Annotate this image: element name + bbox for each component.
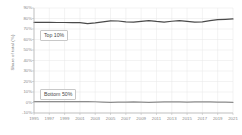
x-tick-label: 2003: [90, 117, 100, 121]
series-annotation-top10: Top 10%: [40, 30, 68, 41]
x-axis-tick-labels: 1995199719992001200320052007200920112013…: [0, 0, 242, 135]
x-tick-label: 1997: [45, 117, 55, 121]
chart-container: Share of total (%) 90%80%70%60%50%40%30%…: [0, 0, 242, 135]
x-tick-label: 2019: [213, 117, 223, 121]
x-tick-label: 2017: [198, 117, 208, 121]
x-tick-label: 2009: [136, 117, 146, 121]
x-tick-label: 2007: [121, 117, 131, 121]
x-tick-label: 2001: [75, 117, 85, 121]
x-tick-label: 2013: [167, 117, 177, 121]
x-tick-label: 2011: [152, 117, 161, 121]
x-tick-label: 2005: [106, 117, 116, 121]
x-tick-label: 2015: [182, 117, 192, 121]
x-tick-label: 1995: [29, 117, 39, 121]
x-tick-label: 1999: [60, 117, 70, 121]
series-annotation-bottom50: Bottom 50%: [40, 89, 76, 100]
x-tick-label: 2021: [228, 117, 238, 121]
